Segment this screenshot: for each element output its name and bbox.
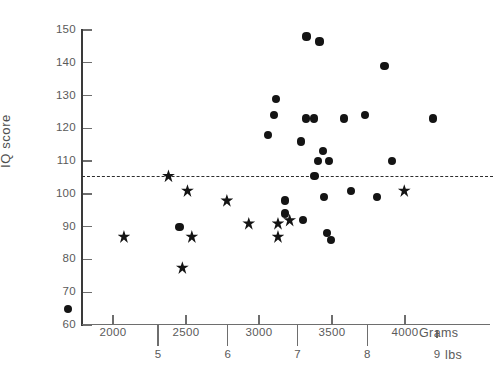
x-axis-tick-label-grams: 4000 bbox=[392, 326, 419, 338]
circle-marker-icon bbox=[319, 147, 327, 155]
star-marker-icon bbox=[185, 230, 198, 243]
star-marker-icon bbox=[398, 184, 411, 197]
y-axis-tick bbox=[83, 292, 92, 293]
x-axis-tick-label-grams: 2000 bbox=[100, 326, 127, 338]
circle-marker-icon bbox=[297, 137, 305, 145]
x-axis-tick-lbs bbox=[367, 324, 368, 346]
circle-marker-icon bbox=[302, 114, 310, 122]
x-axis-tick-grams bbox=[258, 315, 259, 324]
star-marker-icon bbox=[220, 194, 233, 207]
circle-marker-icon bbox=[310, 172, 318, 180]
y-axis-tick-label: 70 bbox=[32, 285, 76, 297]
y-axis-tick-label-text: 90 bbox=[36, 220, 76, 232]
y-axis-tick-label-text: 150 bbox=[36, 23, 76, 35]
y-axis-tick-label-text: 120 bbox=[36, 121, 76, 133]
y-axis-tick-label-text: 70 bbox=[36, 285, 76, 297]
y-axis-line bbox=[81, 29, 83, 326]
x-axis-tick-label-grams: 2500 bbox=[173, 326, 200, 338]
circle-marker-icon bbox=[281, 196, 289, 204]
circle-marker-icon bbox=[299, 216, 307, 224]
circle-marker-icon bbox=[302, 32, 310, 40]
x-axis-tick-grams bbox=[404, 315, 405, 324]
x-axis-tick-label-lbs: 5 bbox=[155, 348, 162, 360]
y-axis-tick-label: 120 bbox=[32, 121, 76, 133]
y-axis-tick bbox=[83, 62, 92, 63]
circle-marker-icon bbox=[388, 157, 396, 165]
y-axis-tick bbox=[83, 259, 92, 260]
star-marker-icon bbox=[118, 230, 131, 243]
x-axis-unit-grams: Grams bbox=[419, 326, 459, 340]
circle-marker-icon bbox=[327, 236, 335, 244]
y-axis-tick-label-text: 100 bbox=[36, 187, 76, 199]
star-marker-icon bbox=[272, 230, 285, 243]
y-axis-tick-label: 100 bbox=[32, 187, 76, 199]
circle-marker-icon bbox=[272, 95, 280, 103]
y-axis-title: IQ score bbox=[0, 114, 13, 168]
circle-marker-icon bbox=[315, 37, 323, 45]
y-axis-tick bbox=[83, 193, 92, 194]
y-axis-tick-label-text: 140 bbox=[36, 56, 76, 68]
y-axis-tick bbox=[83, 226, 92, 227]
y-axis-tick bbox=[83, 95, 92, 96]
circle-marker-icon bbox=[429, 114, 437, 122]
star-marker-icon bbox=[181, 184, 194, 197]
x-axis-tick-grams bbox=[112, 315, 113, 324]
circle-marker-icon bbox=[270, 111, 278, 119]
y-axis-tick-label: 110 bbox=[32, 154, 76, 166]
circle-marker-icon bbox=[314, 157, 322, 165]
x-axis-tick-label-grams: 3000 bbox=[246, 326, 273, 338]
circle-marker-icon bbox=[320, 193, 328, 201]
y-axis-tick-label: 80 bbox=[32, 252, 76, 264]
x-axis-tick-label-lbs: 8 bbox=[364, 348, 371, 360]
y-axis-tick-label: 140 bbox=[32, 56, 76, 68]
x-axis-unit-lbs: lbs bbox=[445, 348, 462, 362]
x-axis-tick-label-lbs: 9 bbox=[434, 348, 441, 360]
x-axis-tick-label-lbs: 7 bbox=[294, 348, 301, 360]
x-axis-tick-lbs bbox=[297, 324, 298, 346]
y-axis-tick-label-text: 110 bbox=[36, 154, 76, 166]
x-axis-tick-grams bbox=[185, 315, 186, 324]
x-axis-tick-label-lbs: 6 bbox=[224, 348, 231, 360]
circle-marker-icon bbox=[310, 114, 318, 122]
circle-marker-icon bbox=[347, 187, 355, 195]
circle-marker-icon bbox=[264, 131, 272, 139]
y-axis-tick-label-text: 80 bbox=[36, 252, 76, 264]
circle-marker-icon bbox=[380, 62, 388, 70]
circle-marker-icon bbox=[281, 209, 289, 217]
x-axis-tick-lbs bbox=[157, 324, 158, 346]
circle-marker-icon bbox=[340, 114, 348, 122]
scatter-plot-figure: IQ score 15014013012011010090807060 2000… bbox=[0, 0, 493, 383]
star-marker-icon bbox=[272, 217, 285, 230]
x-axis-tick-label-grams: 3500 bbox=[319, 326, 346, 338]
y-axis-tick-label: 150 bbox=[32, 23, 76, 35]
circle-marker-icon bbox=[325, 157, 333, 165]
y-axis-tick-label: 90 bbox=[32, 220, 76, 232]
circle-marker-icon bbox=[175, 223, 183, 231]
circle-marker-icon bbox=[373, 193, 381, 201]
y-axis-tick bbox=[83, 160, 92, 161]
star-marker-icon bbox=[176, 261, 189, 274]
y-axis-tick-label-text: 130 bbox=[36, 89, 76, 101]
circle-marker-icon bbox=[64, 305, 72, 313]
y-axis-tick bbox=[83, 128, 92, 129]
y-axis-tick-label: 130 bbox=[32, 89, 76, 101]
y-axis-tick bbox=[83, 29, 92, 30]
x-axis-tick-lbs bbox=[227, 324, 228, 346]
star-marker-icon bbox=[242, 217, 255, 230]
y-axis-tick-label: 60 bbox=[32, 318, 76, 330]
x-axis-tick-grams bbox=[331, 315, 332, 324]
y-axis-tick bbox=[83, 324, 92, 325]
reference-line bbox=[82, 176, 493, 177]
circle-marker-icon bbox=[361, 111, 369, 119]
y-axis-tick-label-text: 60 bbox=[36, 318, 76, 330]
